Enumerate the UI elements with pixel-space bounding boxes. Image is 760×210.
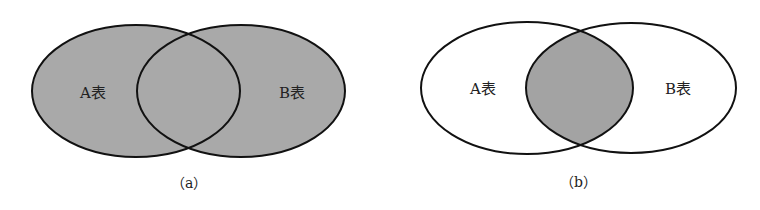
table-b-label: B表 [665, 80, 691, 98]
figure-caption: （b） [560, 174, 597, 190]
table-b-label: B表 [279, 84, 305, 102]
table-a-label: A表 [79, 84, 106, 102]
figure-caption: （a） [171, 175, 207, 191]
venn-union-figure: A表 B表 （a） [32, 25, 345, 191]
venn-intersection-figure: A表 B表 （b） [421, 22, 736, 190]
venn-diagrams: A表 B表 （a） A表 B表 （b） [0, 0, 760, 210]
table-a-label: A表 [469, 80, 496, 98]
